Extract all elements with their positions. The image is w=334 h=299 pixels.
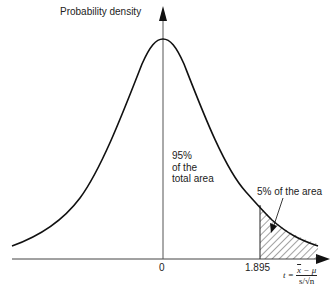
- central-area-line-3: total area: [172, 173, 214, 185]
- y-axis: [159, 6, 167, 259]
- central-area-line-2: of the: [172, 162, 214, 174]
- t-distribution-diagram: Probability density 95% of the total are…: [0, 0, 334, 299]
- formula-minus-mu: − μ: [301, 265, 316, 275]
- tail-hatched-area: [255, 200, 325, 262]
- density-curve: [12, 39, 318, 246]
- formula-numerator: x − μ: [296, 265, 317, 276]
- y-axis-arrow-icon: [159, 6, 167, 21]
- formula-fraction: x − μ s/√n: [296, 265, 317, 286]
- x-axis-arrow-icon: [316, 254, 330, 264]
- x-tick-zero: 0: [159, 262, 165, 273]
- central-area-line-1: 95%: [172, 150, 214, 162]
- formula-denominator: s/√n: [296, 276, 317, 286]
- formula-lhs: t =: [283, 270, 294, 280]
- x-tick-critical: 1.895: [245, 262, 270, 273]
- y-axis-label: Probability density: [60, 6, 141, 17]
- diagram-canvas: [0, 0, 334, 299]
- central-area-label: 95% of the total area: [172, 150, 214, 185]
- x-axis-label-formula: t = x − μ s/√n: [283, 265, 317, 286]
- tail-area-label: 5% of the area: [257, 186, 322, 197]
